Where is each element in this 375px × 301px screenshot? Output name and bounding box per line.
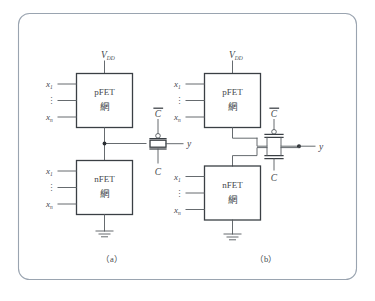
panel-a: VDD pFET 網 x1 ⋮ xn nFET 網 x1 (45, 50, 192, 264)
ground-symbol-a (96, 231, 113, 237)
pfet-to-pmos-wire-b (233, 128, 258, 139)
pfet-block-label-line1-b: pFET (222, 87, 243, 97)
figure-canvas: VDD pFET 網 x1 ⋮ xn nFET 網 x1 (0, 0, 375, 301)
pfet-input-label-n-a: xn (45, 112, 53, 123)
pmos-bubble-b (272, 130, 277, 135)
clock-bar-label-a: C (155, 109, 162, 119)
pmos-bubble-a (156, 134, 161, 139)
vdd-label-a: VDD (101, 50, 115, 61)
nfet-block-label-line2-a: 網 (100, 188, 110, 199)
pfet-input-label-1-a: x1 (45, 79, 53, 90)
pfet-input-label-1-b: x1 (173, 79, 181, 90)
nfet-block-label-line1-a: nFET (94, 174, 115, 184)
pfet-input-dots-b: ⋮ (175, 96, 184, 106)
pmos-transistor-b (265, 130, 283, 147)
nmos-transistor-b (265, 148, 283, 170)
tgate-body-a (150, 140, 166, 147)
pfet-input-dots-a: ⋮ (47, 96, 56, 106)
nfet-input-label-n-a: xn (45, 199, 53, 210)
transmission-gate-a (150, 134, 183, 150)
pmos-source-wire-b (257, 138, 267, 146)
clock-label-b: C (271, 173, 278, 183)
pfet-block-label-line2-b: 網 (228, 101, 238, 112)
clock-bar-label-b: C (271, 109, 278, 119)
nmos-source-wire-b (233, 148, 268, 166)
output-label-b: y (318, 142, 324, 152)
caption-b: （b） (255, 254, 277, 264)
nfet-input-label-n-b: xn (173, 205, 181, 216)
caption-a: （a） (101, 254, 123, 264)
clock-label-a: C (155, 167, 162, 177)
pfet-input-label-n-b: xn (173, 112, 181, 123)
nfet-block-label-line1-b: nFET (222, 180, 243, 190)
circuit-figure: VDD pFET 網 x1 ⋮ xn nFET 網 x1 (0, 0, 375, 301)
pfet-block-label-line1-a: pFET (94, 87, 115, 97)
nfet-input-dots-a: ⋮ (47, 183, 56, 193)
panel-b: VDD pFET 網 x1 ⋮ xn C (173, 50, 324, 264)
mid-node-dot-a (103, 142, 107, 146)
nfet-input-dots-b: ⋮ (175, 189, 184, 199)
nfet-block-label-line2-b: 網 (228, 194, 238, 205)
nfet-input-label-1-b: x1 (173, 172, 181, 183)
output-label-a: y (186, 139, 192, 149)
ground-symbol-b (224, 234, 241, 240)
vdd-label-b: VDD (229, 50, 243, 61)
pfet-block-label-line2-a: 網 (100, 101, 110, 112)
nfet-input-label-1-a: x1 (45, 166, 53, 177)
